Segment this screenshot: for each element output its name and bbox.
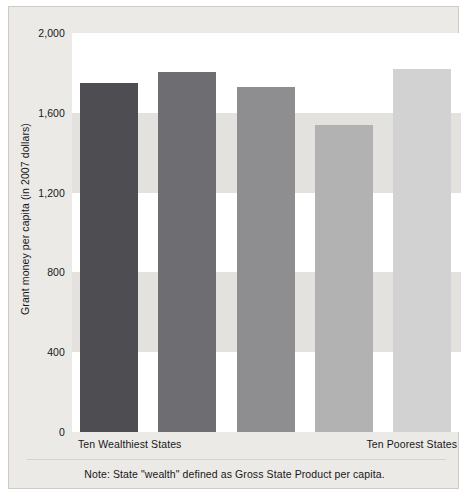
y-tick-800: 800 (13, 266, 65, 278)
x-axis-ticks: Ten Wealthiest States Ten Poorest States (72, 436, 461, 456)
y-axis-ticks: 2,000 1,600 1,200 800 400 0 (9, 33, 65, 432)
bar-series (72, 33, 461, 432)
bar-2[interactable] (158, 72, 216, 432)
chart-note: Note: State "wealth" defined as Gross St… (9, 468, 460, 480)
x-tick-ten-poorest-states: Ten Poorest States (366, 438, 457, 450)
chart-figure: Grant money per capita (in 2007 dollars)… (0, 0, 469, 504)
bar-ten-poorest-states[interactable] (393, 69, 451, 432)
note-divider (27, 459, 446, 460)
chart-panel: Grant money per capita (in 2007 dollars)… (8, 6, 459, 489)
bar-ten-wealthiest-states[interactable] (80, 83, 138, 432)
plot-area (72, 33, 461, 432)
y-tick-1200: 1,200 (13, 187, 65, 199)
bar-3[interactable] (237, 87, 295, 432)
y-tick-400: 400 (13, 346, 65, 358)
y-tick-0: 0 (13, 426, 65, 438)
x-tick-ten-wealthiest-states: Ten Wealthiest States (78, 438, 181, 450)
bar-4[interactable] (315, 125, 373, 432)
y-tick-2000: 2,000 (13, 27, 65, 39)
y-tick-1600: 1,600 (13, 107, 65, 119)
